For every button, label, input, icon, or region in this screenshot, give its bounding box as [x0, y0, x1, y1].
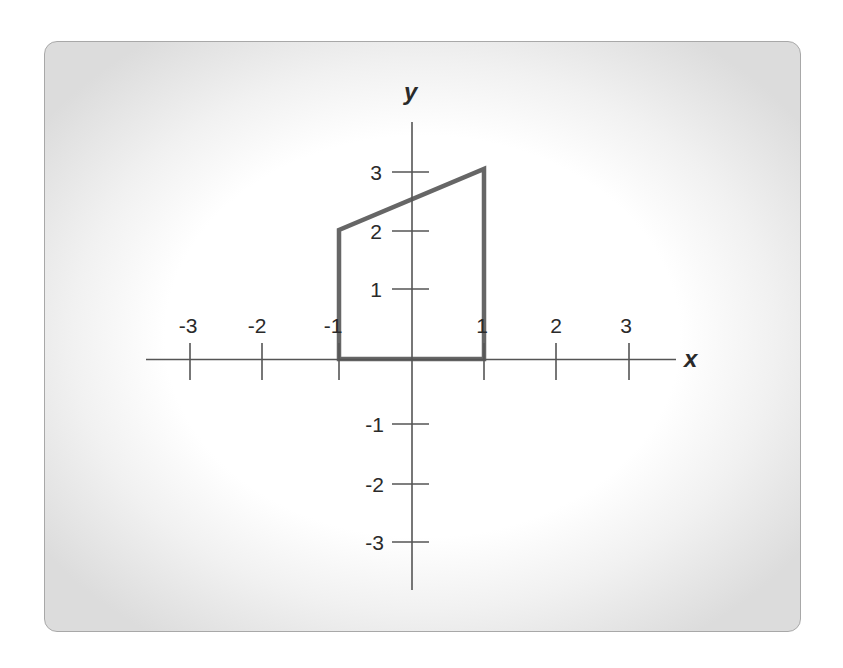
x-axis-label: x [682, 345, 699, 372]
coordinate-plane: -3 -2 -1 1 2 3 3 2 1 -1 -2 -3 x y [0, 0, 843, 668]
x-tick-label-n3: -3 [179, 314, 198, 337]
x-tick-label-p3: 3 [620, 314, 632, 337]
y-tick-label-p3: 3 [370, 161, 382, 184]
y-tick-label-n1: -1 [365, 413, 384, 436]
x-tick-label-p2: 2 [550, 314, 562, 337]
y-tick-label-n3: -3 [365, 531, 384, 554]
x-ticks [190, 343, 629, 380]
y-axis-label: y [403, 78, 419, 105]
y-tick-label-n2: -2 [365, 473, 384, 496]
x-tick-label-p1: 1 [476, 314, 488, 337]
x-tick-label-n1: -1 [324, 314, 343, 337]
x-tick-label-n2: -2 [248, 314, 267, 337]
y-tick-label-p1: 1 [370, 278, 382, 301]
y-tick-label-p2: 2 [370, 220, 382, 243]
